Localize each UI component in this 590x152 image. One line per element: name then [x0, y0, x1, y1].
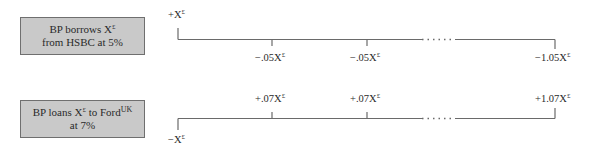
borrow-flow-2-label: −.05X£ — [350, 52, 380, 63]
timeline-2-axis — [178, 108, 555, 130]
loan-outflow-label: −X£ — [168, 134, 185, 145]
label-text: +.07X — [255, 93, 282, 104]
loan-flow-2-label: +.07X£ — [350, 93, 380, 104]
borrow-flow-final-label: −1.05X£ — [535, 52, 570, 63]
label-text: +1.07X — [535, 93, 567, 104]
pound-superscript: £ — [182, 8, 186, 16]
label-text: +.07X — [350, 93, 377, 104]
loan-flow-final-label: +1.07X£ — [535, 93, 570, 104]
timeline-1-axis — [178, 28, 555, 49]
label-text: +X — [168, 9, 182, 20]
label-text: −.05X — [255, 52, 282, 63]
pound-superscript: £ — [282, 51, 286, 59]
pound-superscript: £ — [282, 92, 286, 100]
pound-superscript: £ — [377, 51, 381, 59]
pound-superscript: £ — [567, 51, 571, 59]
label-text: −X — [168, 134, 182, 145]
borrow-flow-1-label: −.05X£ — [255, 52, 285, 63]
borrow-inflow-label: +X£ — [168, 9, 185, 20]
cash-flow-timelines — [0, 0, 590, 152]
pound-superscript: £ — [567, 92, 571, 100]
loan-flow-1-label: +.07X£ — [255, 93, 285, 104]
pound-superscript: £ — [377, 92, 381, 100]
pound-superscript: £ — [182, 133, 186, 141]
label-text: −1.05X — [535, 52, 567, 63]
label-text: −.05X — [350, 52, 377, 63]
